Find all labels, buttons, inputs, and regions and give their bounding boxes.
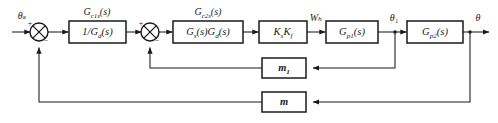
gsgd-tail: (s) xyxy=(219,26,230,37)
kskf-sub2: f xyxy=(290,32,292,40)
gp1-tail: (s) xyxy=(354,26,365,37)
m1-main: m xyxy=(278,62,286,73)
kskf-pre: K xyxy=(274,26,281,37)
inv-gd-tail: (s) xyxy=(102,26,113,37)
block-ks-kf-label: KsKf xyxy=(274,27,293,38)
gp2-pre: G xyxy=(422,26,430,37)
gsgd-pre: G xyxy=(186,26,194,37)
kskf-mid: K xyxy=(283,26,290,37)
block-inv-gd-label: 1/Gd(s) xyxy=(82,27,112,38)
over-label2-tail: (s) xyxy=(211,6,222,17)
sum2-minus-sign: − xyxy=(155,37,160,45)
block-diagram: θₛ + − + − Gc1s(s) 1/Gd(s) Gc2s(s) Gs(s)… xyxy=(0,0,498,123)
block-gp2-label: Gp2(s) xyxy=(422,27,448,38)
block-gp1-label: Gp1(s) xyxy=(339,27,365,38)
gp1-sub: p1 xyxy=(347,32,354,40)
signal-label-wb: Wₕ xyxy=(310,13,323,23)
block-gs-gd-over-label: Gc2s(s) xyxy=(195,7,222,17)
gp1-pre: G xyxy=(339,26,347,37)
inv-gd-pre: 1/G xyxy=(82,26,98,37)
block-inv-gd-over-label: Gc1s(s) xyxy=(84,7,111,17)
diagram-canvas xyxy=(0,0,498,123)
signal-label-theta-s: θₛ xyxy=(18,11,26,21)
gsgd-mid: (s)G xyxy=(197,26,216,37)
signal-label-theta: θ xyxy=(476,13,481,23)
m-main: m xyxy=(280,96,288,107)
over-label2-sub: c2s xyxy=(202,12,211,19)
gp2-tail: (s) xyxy=(437,26,448,37)
signal-label-theta1: θ₁ xyxy=(390,13,398,23)
sum1-plus-sign: + xyxy=(28,20,33,28)
sum2-plus-sign: + xyxy=(139,20,144,28)
over-label-tail: (s) xyxy=(100,6,111,17)
sum1-minus-sign: − xyxy=(44,37,49,45)
over-label-sub: c1s xyxy=(91,12,100,19)
m1-sub: 1 xyxy=(286,68,290,76)
gp2-sub: p2 xyxy=(430,32,437,40)
wire-m1-to-sum2 xyxy=(150,48,262,69)
block-gs-gd-label: Gs(s)Gd(s) xyxy=(186,27,230,38)
block-m1-label: m1 xyxy=(278,63,290,74)
block-m-label: m xyxy=(280,97,288,108)
